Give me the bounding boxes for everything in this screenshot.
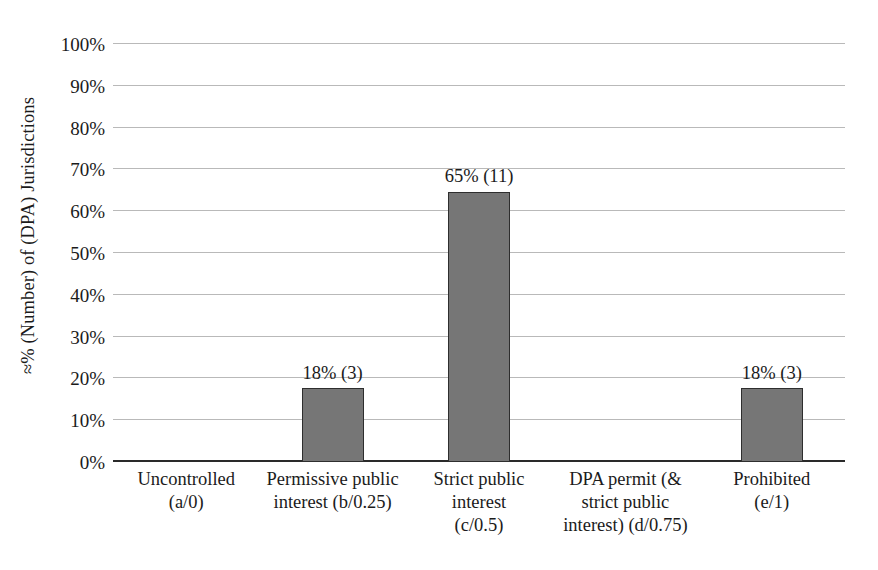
bar[interactable]: [448, 192, 510, 462]
y-axis-tick-label: 80%: [43, 118, 105, 137]
bar-data-label: 18% (3): [303, 364, 363, 383]
x-axis-category-label-line: strict public: [552, 491, 698, 514]
x-axis-category-label-line: interest (b/0.25): [259, 491, 405, 514]
x-axis-category-label-line: DPA permit (&: [552, 468, 698, 491]
y-axis-tick-label: 70%: [43, 160, 105, 179]
y-axis-tick-label: 50%: [43, 244, 105, 263]
x-axis-category-label-line: interest: [406, 491, 552, 514]
bar-slot: [552, 44, 698, 462]
bar-chart-figure: ≈% (Number) of (DPA) Jurisdictions 100%9…: [0, 0, 878, 570]
x-axis-category-label-line: Permissive public: [259, 468, 405, 491]
y-axis-title-text: ≈% (Number) of (DPA) Jurisdictions: [18, 97, 39, 374]
bars-layer: 18% (3)65% (11)18% (3): [113, 44, 845, 462]
x-axis-category-label-line: (c/0.5): [406, 514, 552, 537]
bar-slot: 65% (11): [406, 44, 552, 462]
y-axis-tick-label: 60%: [43, 202, 105, 221]
x-axis-category-label: Prohibited(e/1): [699, 468, 845, 514]
x-axis-category-labels: Uncontrolled(a/0)Permissive publicintere…: [113, 468, 845, 568]
bar-slot: 18% (3): [259, 44, 405, 462]
bar[interactable]: [741, 388, 803, 462]
y-axis-tick-label: 90%: [43, 76, 105, 95]
x-axis-category-label-line: interest) (d/0.75): [552, 514, 698, 537]
y-axis-tick-label: 40%: [43, 285, 105, 304]
x-axis-category-label-line: (a/0): [113, 491, 259, 514]
plot-area: 18% (3)65% (11)18% (3): [113, 44, 845, 462]
y-axis-tick-label: 100%: [43, 35, 105, 54]
bar[interactable]: [302, 388, 364, 462]
y-axis-tick-label: 10%: [43, 411, 105, 430]
x-axis-category-label-line: Prohibited: [699, 468, 845, 491]
x-axis-category-label: Strict publicinterest(c/0.5): [406, 468, 552, 537]
bar-slot: [113, 44, 259, 462]
y-axis-tick-label: 30%: [43, 327, 105, 346]
x-axis-category-label-line: (e/1): [699, 491, 845, 514]
x-axis-category-label: DPA permit (&strict publicinterest) (d/0…: [552, 468, 698, 537]
x-axis-category-label-line: Uncontrolled: [113, 468, 259, 491]
x-axis-category-label: Uncontrolled(a/0): [113, 468, 259, 514]
bar-data-label: 65% (11): [445, 167, 514, 186]
y-axis-tick-labels: 100%90%80%70%60%50%40%30%20%10%0%: [37, 44, 105, 462]
bar-data-label: 18% (3): [742, 364, 802, 383]
y-axis-tick-label: 0%: [43, 453, 105, 472]
bar-slot: 18% (3): [699, 44, 845, 462]
x-axis-category-label-line: Strict public: [406, 468, 552, 491]
y-axis-tick-label: 20%: [43, 369, 105, 388]
x-axis-category-label: Permissive publicinterest (b/0.25): [259, 468, 405, 514]
